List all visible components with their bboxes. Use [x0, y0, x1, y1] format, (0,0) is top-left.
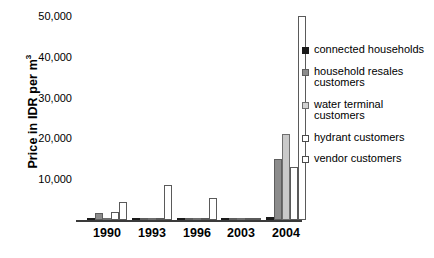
legend-item[interactable]: hydrant customers	[302, 132, 434, 144]
bar	[95, 213, 103, 220]
x-axis-tick-label: 1993	[138, 226, 166, 240]
legend-swatch-icon	[302, 156, 309, 163]
y-axis-tick-labels: 10,00020,00030,00040,00050,000	[0, 0, 72, 258]
legend-swatch-icon	[302, 69, 309, 76]
bar-group	[266, 16, 306, 220]
x-axis-tick-labels: 19901993199620032004	[76, 226, 302, 248]
bar	[164, 185, 172, 220]
bar-group	[177, 198, 217, 220]
x-axis-tick-label: 2003	[227, 226, 255, 240]
plot-area	[76, 8, 300, 220]
bar-chart-figure: Price in IDR per m3 10,00020,00030,00040…	[0, 0, 434, 258]
x-axis-tick-label: 2004	[272, 226, 300, 240]
bar	[209, 198, 217, 220]
bar	[282, 134, 290, 220]
bar-group	[87, 202, 127, 220]
y-axis-tick-label: 40,000	[26, 51, 72, 62]
legend-item-label: vendor customers	[314, 153, 401, 165]
y-axis-tick-label: 10,000	[26, 174, 72, 185]
legend-item[interactable]: vendor customers	[302, 153, 434, 165]
x-axis-tick-label: 1996	[183, 226, 211, 240]
bar	[290, 167, 298, 220]
bar	[274, 159, 282, 220]
legend-item[interactable]: water terminal customers	[302, 99, 434, 122]
y-axis-tick-label: 30,000	[26, 92, 72, 103]
legend-item-label: household resales customers	[314, 66, 434, 89]
legend-swatch-icon	[302, 135, 309, 142]
legend-item-label: connected households	[314, 44, 424, 56]
chart-legend: connected householdshousehold resales cu…	[302, 44, 434, 175]
x-axis-tick-label: 1990	[93, 226, 121, 240]
bar-group	[132, 185, 172, 220]
y-axis-tick-label: 50,000	[26, 11, 72, 22]
legend-item-label: hydrant customers	[314, 132, 404, 144]
legend-item-label: water terminal customers	[314, 99, 434, 122]
y-axis-tick-label: 20,000	[26, 133, 72, 144]
legend-item[interactable]: household resales customers	[302, 66, 434, 89]
legend-swatch-icon	[302, 47, 309, 54]
legend-item[interactable]: connected households	[302, 44, 434, 56]
legend-swatch-icon	[302, 102, 309, 109]
x-axis-baseline	[76, 220, 302, 222]
bar	[111, 212, 119, 220]
bar	[119, 202, 127, 220]
